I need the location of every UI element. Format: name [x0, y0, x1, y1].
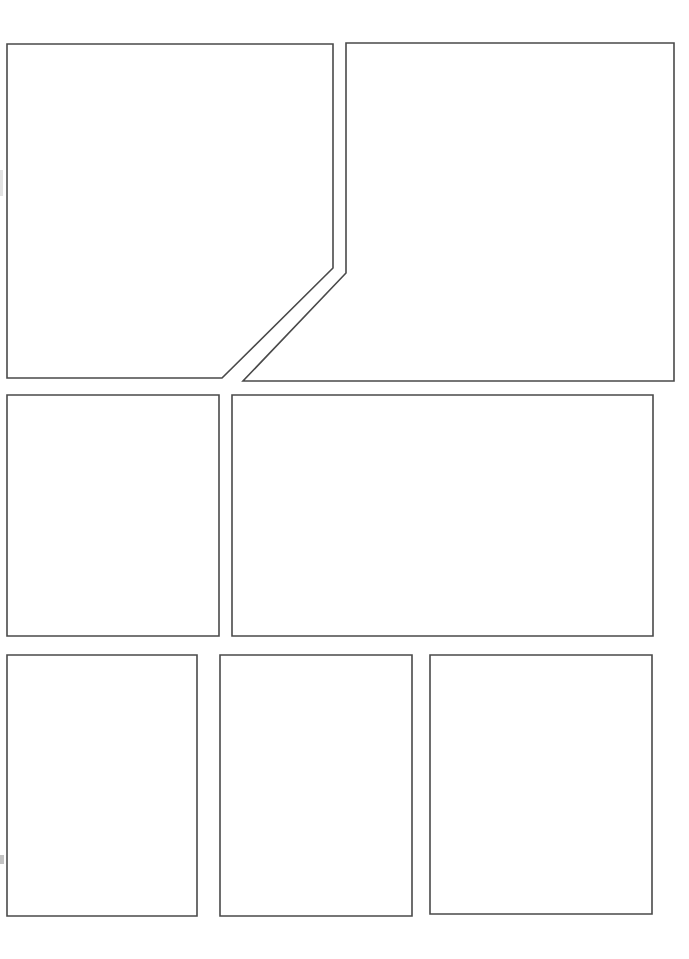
page-edge-artifact-top: [0, 170, 3, 196]
panel-5[interactable]: [7, 655, 197, 916]
panel-layer: [0, 0, 689, 959]
panel-4[interactable]: [232, 395, 653, 636]
panel-6[interactable]: [220, 655, 412, 916]
panel-7[interactable]: [430, 655, 652, 914]
comic-page: [0, 0, 689, 959]
panel-3[interactable]: [7, 395, 219, 636]
page-edge-artifact-left: [0, 855, 4, 864]
